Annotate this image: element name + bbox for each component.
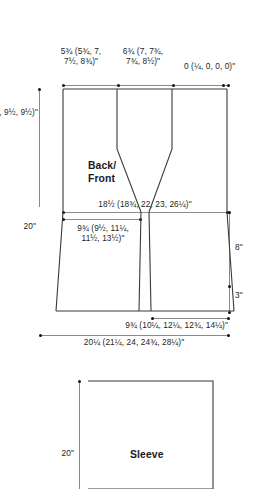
body-outline	[63, 89, 227, 311]
schematic-canvas: 5¾ (5¾, 7, 7½, 8¾)" 6¾ (7, 7¾, 7¾, 8½)" …	[0, 0, 267, 489]
sleeve-outline	[88, 381, 213, 489]
center-front-left	[139, 212, 141, 311]
schematic-outline	[0, 0, 267, 489]
body-right-side	[227, 89, 234, 311]
body-left-side	[56, 89, 63, 311]
center-front-right	[149, 212, 151, 311]
neckline-right-shaping	[149, 89, 172, 212]
neckline-left-shaping	[117, 89, 141, 212]
